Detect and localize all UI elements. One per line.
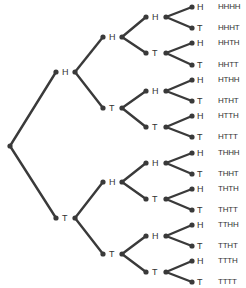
leaf-label: T [197, 132, 203, 142]
leaf-node [189, 25, 194, 30]
branch-line [166, 163, 192, 174]
outcome-label: HTHT [218, 96, 239, 106]
outcome-label: HTHH [218, 75, 239, 85]
node-label: H [152, 12, 159, 22]
outcome-label: TTTH [218, 256, 238, 266]
leaf-node [189, 279, 194, 284]
outcome-label: TTTT [218, 277, 237, 287]
branch-line [166, 261, 192, 272]
branch-line [122, 37, 146, 53]
branch-line [122, 236, 146, 254]
node-label: T [109, 249, 115, 259]
leaf-node [189, 207, 194, 212]
branch-line [122, 17, 146, 37]
outcome-label: THHH [218, 148, 239, 158]
leaf-label: T [197, 241, 203, 251]
leaf-node [189, 40, 194, 45]
leaf-label: T [197, 96, 203, 106]
branch-line [122, 182, 146, 199]
leaf-node [189, 134, 194, 139]
node-level3 [143, 124, 148, 129]
branch-line [122, 163, 146, 182]
tree-diagram [0, 0, 246, 288]
branch-line [75, 37, 103, 72]
node-label: T [152, 122, 158, 132]
branch-line [122, 91, 146, 108]
branch-line [166, 189, 192, 199]
node-level3 [143, 88, 148, 93]
leaf-label: H [197, 2, 204, 12]
branch-line [75, 218, 103, 254]
branch-line [122, 108, 146, 127]
leaf-node [189, 62, 194, 67]
branch-line [166, 43, 192, 53]
node-level2 [100, 34, 105, 39]
branch-line [166, 116, 192, 127]
node-label: H [109, 177, 116, 187]
leaf-label: H [197, 148, 204, 158]
node-level1 [53, 215, 58, 220]
leaf-label: H [197, 111, 204, 121]
node-level3 [143, 14, 148, 19]
branch-line [166, 272, 192, 282]
leaf-node [189, 4, 194, 9]
leaf-label: T [197, 169, 203, 179]
node-label: T [62, 213, 68, 223]
leaf-node [189, 258, 194, 263]
leaf-label: T [197, 277, 203, 287]
node-level2 [100, 105, 105, 110]
node-label: T [152, 267, 158, 277]
branch-line [10, 72, 56, 146]
node-label: H [152, 231, 159, 241]
node-level3 [143, 233, 148, 238]
node-label: H [152, 86, 159, 96]
node-label: H [62, 67, 69, 77]
branch-line [75, 72, 103, 108]
node-level1 [53, 69, 58, 74]
outcome-label: THHT [218, 169, 239, 179]
leaf-label: H [197, 256, 204, 266]
outcome-label: HTTH [218, 111, 239, 121]
leaf-label: H [197, 38, 204, 48]
leaf-node [189, 113, 194, 118]
node-label: T [152, 194, 158, 204]
node-level2 [100, 179, 105, 184]
outcome-label: HTTT [218, 132, 238, 142]
outcome-label: HHTH [218, 38, 239, 48]
outcome-label: THTT [218, 205, 238, 215]
branch-line [75, 182, 103, 218]
node-level3 [143, 50, 148, 55]
branch-line [166, 236, 192, 246]
leaf-label: H [197, 75, 204, 85]
leaf-node [189, 98, 194, 103]
branch-line [166, 153, 192, 163]
branch-line [166, 91, 192, 101]
node-level3 [143, 160, 148, 165]
leaf-node [189, 222, 194, 227]
outcome-label: HHHH [218, 2, 240, 12]
node-label: H [109, 32, 116, 42]
outcome-label: TTHH [218, 220, 239, 230]
branch-line [166, 127, 192, 137]
outcome-label: HHTT [218, 60, 239, 70]
branch-line [166, 17, 192, 28]
branch-line [166, 80, 192, 91]
leaf-node [189, 186, 194, 191]
leaf-node [189, 243, 194, 248]
leaf-node [189, 171, 194, 176]
node-level3 [143, 196, 148, 201]
leaf-label: T [197, 23, 203, 33]
branch-line [122, 254, 146, 272]
leaf-label: T [197, 60, 203, 70]
node-label: T [109, 103, 115, 113]
branch-line [166, 7, 192, 17]
leaf-label: T [197, 205, 203, 215]
node-label: T [152, 48, 158, 58]
node-level3 [143, 269, 148, 274]
branch-line [166, 53, 192, 65]
outcome-label: HHHT [218, 23, 239, 33]
node-label: H [152, 158, 159, 168]
outcome-label: THTH [218, 184, 239, 194]
outcome-label: TTHT [218, 241, 238, 251]
leaf-label: H [197, 220, 204, 230]
